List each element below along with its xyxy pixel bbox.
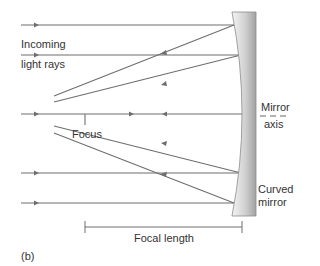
- light-rays-label: light rays: [21, 58, 65, 71]
- focal-length-label: Focal length: [134, 232, 194, 245]
- mirror-label: Mirror: [261, 101, 290, 114]
- focus-label: Focus: [72, 128, 102, 141]
- panel-label: (b): [21, 250, 34, 263]
- axis-label: axis: [264, 118, 284, 131]
- curved-mirror-label: mirror: [258, 196, 287, 209]
- incoming-label: Incoming: [21, 38, 66, 51]
- curved-label: Curved: [258, 183, 293, 196]
